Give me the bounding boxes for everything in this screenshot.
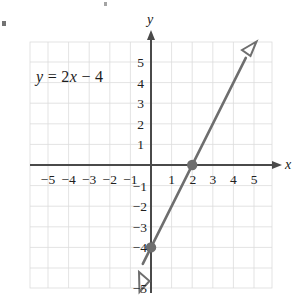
point-x-intercept — [187, 160, 197, 170]
x-axis-arrowhead — [272, 161, 282, 169]
y-tick-label: 4 — [137, 76, 144, 91]
y-tick-label: 3 — [137, 96, 144, 111]
y-tick-label: −2 — [133, 199, 147, 214]
x-tick-label: −3 — [82, 172, 97, 187]
x-tick-label: 2 — [189, 172, 196, 187]
x-tick-label: −5 — [41, 172, 56, 187]
y-tick-label: −4 — [133, 240, 148, 255]
x-axis-tick-labels: −5 −4 −3 −2 −1 1 2 3 4 5 — [41, 172, 258, 187]
equation-relation: = — [48, 68, 57, 85]
y-tick-label: −3 — [133, 220, 148, 235]
y-tick-label: −1 — [133, 179, 147, 194]
coordinate-plane: −5 −4 −3 −2 −1 1 2 3 4 5 5 4 3 2 1 −1 −2… — [0, 0, 300, 299]
equation-operator: − — [81, 68, 90, 85]
stray-ink-mark-left — [2, 21, 6, 26]
equation-lhs: y — [36, 68, 43, 85]
x-tick-label: 4 — [230, 172, 237, 187]
equation-coefficient: 2 — [61, 68, 69, 85]
y-tick-label: 5 — [137, 55, 144, 70]
equation-variable: x — [70, 68, 77, 85]
x-tick-label: −2 — [103, 172, 117, 187]
point-y-intercept — [146, 242, 156, 252]
y-axis-arrowhead — [147, 30, 155, 40]
x-tick-label: 3 — [209, 172, 216, 187]
y-tick-label: 1 — [137, 137, 144, 152]
y-tick-label: 2 — [137, 117, 144, 132]
x-axis-label: x — [284, 157, 292, 172]
y-tick-label: −5 — [133, 281, 148, 296]
line-series-y-equals-2x-minus-4 — [139, 42, 257, 293]
y-axis-label: y — [145, 12, 154, 27]
stray-ink-mark-top — [104, 2, 107, 6]
x-tick-label: 5 — [251, 172, 258, 187]
graph-figure: −5 −4 −3 −2 −1 1 2 3 4 5 5 4 3 2 1 −1 −2… — [0, 0, 300, 299]
x-tick-label: −4 — [61, 172, 76, 187]
equation-annotation: y = 2x − 4 — [36, 68, 103, 86]
equation-constant: 4 — [95, 68, 103, 85]
x-tick-label: 1 — [168, 172, 175, 187]
